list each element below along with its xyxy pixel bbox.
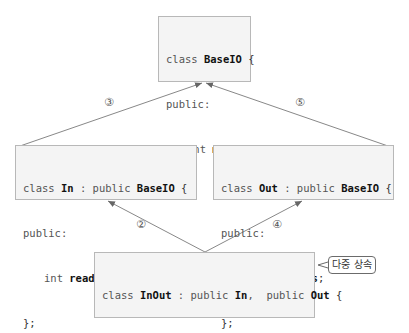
inheritance-spec: : public (278, 182, 341, 194)
inheritance-spec: , public (247, 289, 310, 301)
class-box-in: class In : public BaseIO { public: int r… (15, 145, 197, 200)
keyword: class (23, 182, 61, 194)
class-box-inout: class InOut : public In, public Out { pu… (94, 252, 315, 318)
class-name: InOut (140, 289, 172, 301)
inheritance-spec: : public (74, 182, 137, 194)
brace: { (175, 182, 188, 194)
brace: { (330, 289, 343, 301)
keyword: class (166, 53, 204, 65)
inheritance-spec: : public (172, 289, 235, 301)
arrow-label-2: ② (136, 218, 146, 231)
arrow-label-5: ⑤ (295, 96, 305, 109)
keyword: class (221, 182, 259, 194)
access-specifier: public: (23, 226, 196, 241)
keyword: class (102, 289, 140, 301)
class-box-baseio: class BaseIO { public: int mode; }; (158, 16, 251, 82)
class-name: BaseIO (204, 53, 242, 65)
base-class-name: In (235, 289, 248, 301)
brace: { (379, 182, 392, 194)
access-specifier: public: (166, 97, 250, 112)
brace: { (242, 53, 255, 65)
semicolon: ; (318, 272, 324, 284)
arrow-label-4: ④ (272, 218, 282, 231)
arrow-label-3: ③ (104, 96, 114, 109)
base-class-name: BaseIO (341, 182, 379, 194)
class-name: In (61, 182, 74, 194)
base-class-name: Out (311, 289, 330, 301)
class-name: Out (259, 182, 278, 194)
base-class-name: BaseIO (137, 182, 175, 194)
access-specifier: public: (221, 226, 393, 241)
multiple-inheritance-callout: 다중 상속 (328, 256, 376, 274)
class-box-out: class Out : public BaseIO { public: int … (213, 145, 394, 200)
type: int (44, 272, 69, 284)
